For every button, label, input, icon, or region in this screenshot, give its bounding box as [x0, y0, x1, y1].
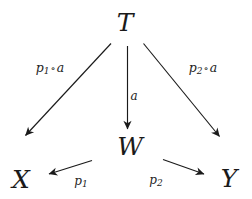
edge-label-T-to-W: a [130, 90, 137, 102]
composition-icon: ∘ [203, 61, 210, 73]
node-Y: Y [221, 166, 238, 191]
commutative-diagram: T W X Y p1∘a a p2∘a p1 p2 [0, 0, 252, 199]
edge-label-subscript: 2 [197, 66, 203, 76]
edge-label-W-to-X: p1 [74, 175, 87, 190]
edge-label-base: p [36, 60, 44, 75]
arrow-T-to-X [26, 44, 112, 136]
edge-label-base: p [74, 174, 82, 188]
edge-label-argument: a [57, 60, 64, 75]
edge-label-subscript: 1 [44, 66, 50, 76]
arrow-W-to-X [49, 161, 92, 175]
edge-label-subscript: 2 [157, 178, 163, 188]
arrow-W-to-Y [163, 160, 204, 175]
node-W: W [117, 134, 143, 159]
arrow-T-to-Y [144, 44, 220, 137]
edge-label-subscript: 1 [82, 179, 88, 189]
node-T: T [117, 10, 134, 35]
edge-label-T-to-Y: p2∘a [189, 62, 217, 77]
edge-label-base: p [189, 60, 197, 75]
node-X: X [12, 167, 30, 192]
composition-icon: ∘ [50, 61, 57, 73]
edge-label-base: p [149, 173, 157, 187]
edge-label-base: a [130, 89, 137, 103]
edge-label-T-to-X: p1∘a [36, 62, 64, 77]
edge-label-W-to-Y: p2 [149, 174, 162, 189]
edge-label-argument: a [210, 60, 217, 75]
